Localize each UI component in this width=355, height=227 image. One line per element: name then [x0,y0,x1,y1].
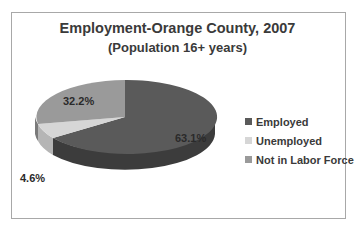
legend-swatch-unemployed [245,137,252,144]
legend-label: Not in Labor Force [256,154,354,166]
legend-item-not-in-labor-force: Not in Labor Force [245,150,354,169]
legend-swatch-not-in-labor-force [245,156,252,163]
legend-item-unemployed: Unemployed [245,131,354,150]
legend-label: Employed [256,116,309,128]
label-unemployed: 4.6% [20,172,45,184]
legend-swatch-employed [245,118,252,125]
legend: Employed Unemployed Not in Labor Force [245,112,354,169]
label-employed: 63.1% [175,132,206,144]
legend-item-employed: Employed [245,112,354,131]
label-not-in-labor-force: 32.2% [63,95,94,107]
legend-label: Unemployed [256,135,322,147]
